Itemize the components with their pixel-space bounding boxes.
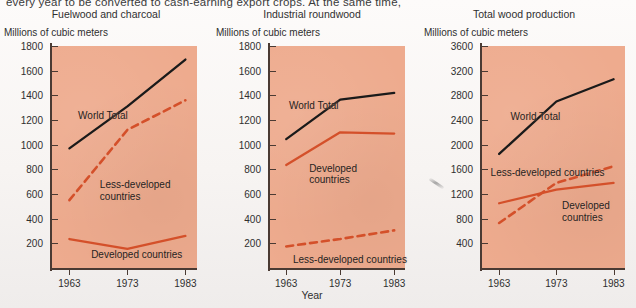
y-axis-tick-label: 1000 [239,139,261,150]
series-label-world-total: World Total [289,100,339,112]
y-axis-tick-label: 400 [26,213,43,224]
body-text-caption: every year to be converted to cash-earni… [6,0,626,8]
x-axis-title: Year [301,289,322,301]
y-axis-tick-label: 400 [244,213,261,224]
y-axis-tick-label: 1600 [451,164,473,175]
chart-title: Industrial roundwood [212,8,412,20]
y-axis-tick-label: 800 [244,164,261,175]
x-axis-tick [556,268,557,275]
y-axis-tick-label: 600 [244,189,261,200]
y-axis-tick-label: 1600 [21,65,43,76]
x-axis-tick [127,268,128,275]
x-axis-tick [499,268,500,275]
series-lines [482,46,625,268]
y-axis-tick-label: 400 [456,238,473,249]
x-axis-tick [185,268,186,275]
y-axis-tick-label: 1600 [239,65,261,76]
y-axis-tick-label: 1800 [239,41,261,52]
chart-panel-fuelwood-and-charcoal: Fuelwood and charcoal Millions of cubic … [0,0,212,308]
x-axis-tick-label: 1983 [174,278,196,289]
y-axis-tick-label: 2800 [451,90,473,101]
y-axis-tick-label: 1400 [239,90,261,101]
x-axis-tick [394,268,395,275]
y-axis-unit-label: Millions of cubic meters [4,27,108,38]
y-axis-tick-label: 1200 [239,115,261,126]
series-label-less-developed-countries: Less-developed countries [491,167,605,179]
y-axis-tick-label: 1000 [21,139,43,150]
x-axis-tick-label: 1963 [58,278,80,289]
chart-panel-total-wood-production: Total wood production Millions of cubic … [412,0,636,308]
y-axis-tick-label: 1800 [21,41,43,52]
x-axis-tick-label: 1973 [116,278,138,289]
x-axis-line [268,268,405,270]
series-label-world-total: World Total [78,110,128,122]
series-line-less-developed-countries [286,230,394,246]
series-label-world-total: World Total [511,111,561,123]
series-label-developed-countries: Developed countries [309,163,357,186]
x-axis-line [480,268,625,270]
series-lines [270,46,405,268]
x-axis-tick [69,268,70,275]
x-axis-tick-label: 1963 [488,278,510,289]
series-line-developed-countries [286,132,394,165]
chart-title: Fuelwood and charcoal [0,8,212,20]
plot-area: 20040060080010001200140016001800 1963197… [52,46,197,268]
plot-area: 4008001200160020002400280032003600 19631… [482,46,625,268]
x-axis-tick [614,268,615,275]
y-axis-tick-label: 2400 [451,115,473,126]
y-axis-tick-label: 1200 [21,115,43,126]
x-axis-tick [340,268,341,275]
x-axis-tick-label: 1963 [275,278,297,289]
series-line-world-total [69,60,185,149]
y-axis-tick-label: 200 [244,238,261,249]
y-axis-unit-label: Millions of cubic meters [424,27,528,38]
y-axis-tick-label: 3600 [451,41,473,52]
y-axis-tick-label: 800 [456,213,473,224]
y-axis-tick-label: 200 [26,238,43,249]
plot-area: 20040060080010001200140016001800 1963197… [270,46,405,268]
x-axis-tick [286,268,287,275]
series-label-less-developed-countries: Less-developed countries [293,254,407,266]
y-axis-tick-label: 2000 [451,139,473,150]
y-axis-tick-label: 800 [26,164,43,175]
x-axis-tick-label: 1983 [602,278,624,289]
chart-panel-industrial-roundwood: Industrial roundwood Millions of cubic m… [212,0,412,308]
series-label-developed-countries: Developed countries [562,200,610,223]
chart-title: Total wood production [412,8,636,20]
x-axis-tick-label: 1973 [545,278,567,289]
y-axis-tick-label: 1400 [21,90,43,101]
x-axis-tick-label: 1973 [329,278,351,289]
y-axis-tick-label: 3200 [451,65,473,76]
series-label-less-developed-countries: Less-developed countries [100,179,171,202]
series-label-developed-countries: Developed countries [91,249,182,261]
y-axis-unit-label: Millions of cubic meters [216,27,320,38]
x-axis-line [50,268,197,270]
series-line-developed-countries [69,236,185,249]
series-lines [52,46,197,268]
x-axis-tick-label: 1983 [383,278,405,289]
y-axis-tick-label: 1200 [451,189,473,200]
y-axis-tick-label: 600 [26,189,43,200]
